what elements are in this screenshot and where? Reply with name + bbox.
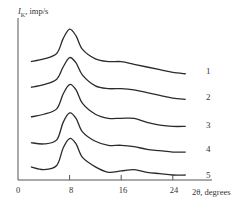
y-axis-unit: , imp/s xyxy=(25,6,48,16)
x-axis-ticks xyxy=(70,175,173,180)
curve-label-3: 3 xyxy=(206,120,211,130)
x-tick-label-0: 0 xyxy=(16,185,20,195)
curve-3 xyxy=(31,84,186,126)
curve-2 xyxy=(31,57,186,99)
x-axis-label: 2θ, degrees xyxy=(192,187,231,197)
curve-1 xyxy=(31,29,186,74)
x-tick-label-16: 16 xyxy=(119,185,128,195)
curve-label-1: 1 xyxy=(206,66,211,76)
curve-label-5: 5 xyxy=(206,170,211,180)
curve-label-4: 4 xyxy=(206,144,211,154)
x-tick-label-8: 8 xyxy=(69,185,73,195)
y-axis-label: IK, imp/s xyxy=(18,6,48,18)
curve-label-2: 2 xyxy=(206,92,211,102)
curves xyxy=(31,29,186,175)
curve-5 xyxy=(31,138,186,175)
x-tick-label-24: 24 xyxy=(170,185,179,195)
xrd-chart xyxy=(0,0,251,208)
